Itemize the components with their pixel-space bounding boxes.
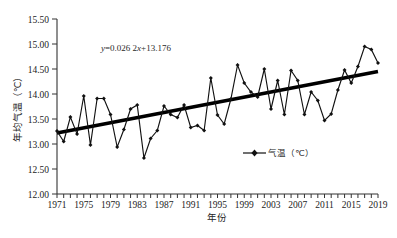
x-tick-label: 1995 — [208, 200, 227, 210]
legend-label: 气温（℃） — [268, 148, 314, 158]
x-tick-label: 1987 — [155, 200, 174, 210]
y-tick-label: 13.00 — [28, 140, 50, 150]
x-tick-label: 1999 — [235, 200, 254, 210]
y-tick-label: 12.00 — [28, 190, 50, 200]
y-tick-label: 15.50 — [28, 15, 50, 25]
x-tick-label: 2015 — [342, 200, 361, 210]
y-tick-label: 14.50 — [28, 65, 50, 75]
chart-figure: 12.00 12.50 13.00 13.50 14.00 14.50 15.0… — [0, 0, 397, 238]
temperature-line-chart: 12.00 12.50 13.00 13.50 14.00 14.50 15.0… — [0, 0, 397, 238]
x-tick-label: 1983 — [128, 200, 147, 210]
x-axis-title: 年份 — [207, 212, 227, 223]
y-tick-label: 12.50 — [28, 165, 50, 175]
y-tick-label: 14.00 — [28, 90, 50, 100]
y-tick-label: 15.00 — [28, 40, 50, 50]
x-tick-label: 1991 — [181, 200, 200, 210]
y-axis-title: 年均气温（℃） — [12, 72, 23, 143]
x-tick-label: 1975 — [74, 200, 93, 210]
x-tick-label: 2019 — [369, 200, 388, 210]
trend-equation-label: y=0.026 2x+13.176 — [100, 43, 171, 53]
x-tick-label: 2011 — [315, 200, 334, 210]
x-tick-label: 1979 — [101, 200, 120, 210]
x-tick-label: 2007 — [288, 200, 307, 210]
x-tick-label: 2003 — [262, 200, 281, 210]
y-tick-label: 13.50 — [28, 115, 50, 125]
x-tick-label: 1971 — [48, 200, 67, 210]
